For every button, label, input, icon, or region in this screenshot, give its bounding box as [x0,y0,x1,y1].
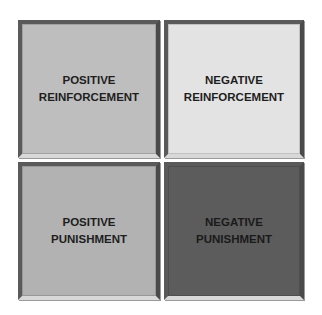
cell-label: POSITIVE PUNISHMENT [51,214,127,248]
cell-label-line1: NEGATIVE [196,214,272,231]
cell-negative-reinforcement: NEGATIVE REINFORCEMENT [164,20,304,158]
cell-label-line1: POSITIVE [51,214,127,231]
cell-label-line2: PUNISHMENT [196,231,272,248]
cell-label-line2: REINFORCEMENT [39,89,139,106]
cell-positive-reinforcement: POSITIVE REINFORCEMENT [18,20,160,158]
operant-conditioning-matrix: POSITIVE REINFORCEMENT NEGATIVE REINFORC… [18,20,304,300]
cell-label-line2: REINFORCEMENT [184,89,284,106]
cell-label: POSITIVE REINFORCEMENT [39,72,139,106]
cell-negative-punishment: NEGATIVE PUNISHMENT [164,162,304,300]
cell-label-line2: PUNISHMENT [51,231,127,248]
cell-label: NEGATIVE REINFORCEMENT [184,72,284,106]
cell-label-line1: NEGATIVE [184,72,284,89]
cell-positive-punishment: POSITIVE PUNISHMENT [18,162,160,300]
cell-label: NEGATIVE PUNISHMENT [196,214,272,248]
cell-label-line1: POSITIVE [39,72,139,89]
